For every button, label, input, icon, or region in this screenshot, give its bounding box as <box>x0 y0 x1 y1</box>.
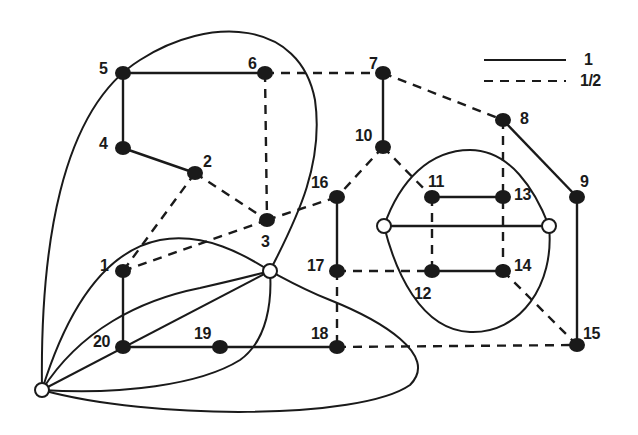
node-18 <box>329 340 345 354</box>
legend <box>484 60 566 81</box>
node-label-3: 3 <box>261 234 269 250</box>
hub-curves <box>42 32 550 412</box>
node-label-19: 19 <box>194 326 211 342</box>
node-label-20: 20 <box>93 334 110 350</box>
node-16 <box>329 190 345 204</box>
node-14 <box>495 264 511 278</box>
edge-10-11 <box>383 147 432 197</box>
node-label-5: 5 <box>99 61 107 77</box>
hub-node-hubW <box>377 219 391 233</box>
node-8 <box>495 113 511 127</box>
node-4 <box>115 141 131 155</box>
curve-lens-bottom <box>384 226 550 332</box>
curve-hub-straight <box>42 271 270 390</box>
node-label-7: 7 <box>369 56 377 72</box>
node-label-1: 1 <box>100 258 108 274</box>
node-label-4: 4 <box>99 136 107 152</box>
node-20 <box>115 340 131 354</box>
legend-dashed-label: 1/2 <box>580 73 601 89</box>
curve-loop-top <box>42 32 317 390</box>
edge-2-1 <box>123 173 195 271</box>
node-2 <box>187 166 203 180</box>
node-12 <box>424 264 440 278</box>
node-label-10: 10 <box>355 128 372 144</box>
edge-10-16 <box>337 147 383 197</box>
curve-loop-mid <box>42 238 270 390</box>
node-label-16: 16 <box>311 175 328 191</box>
node-label-11: 11 <box>428 174 444 190</box>
node-label-8: 8 <box>520 111 528 127</box>
node-11 <box>424 190 440 204</box>
node-10 <box>375 140 391 154</box>
node-label-6: 6 <box>248 56 256 72</box>
hub-node-hubE <box>542 219 556 233</box>
edge-4-2 <box>123 148 195 173</box>
node-5 <box>115 66 131 80</box>
node-label-2: 2 <box>203 154 211 170</box>
edge-6-3 <box>265 73 267 220</box>
node-label-9: 9 <box>580 174 588 190</box>
hub-node-hubL <box>35 383 49 397</box>
node-label-13: 13 <box>514 187 531 203</box>
node-label-14: 14 <box>514 258 531 274</box>
edges <box>123 73 577 347</box>
node-3 <box>259 213 275 227</box>
node-label-18: 18 <box>311 326 328 342</box>
edge-14-15 <box>503 271 577 345</box>
graph-canvas <box>0 0 638 435</box>
graph-diagram: 1 1/2 1234567891011121314151617181920 <box>0 0 638 435</box>
node-9 <box>569 190 585 204</box>
node-label-17: 17 <box>307 258 324 274</box>
node-6 <box>257 66 273 80</box>
hub-node-hubC <box>263 264 277 278</box>
legend-solid-label: 1 <box>584 52 592 68</box>
node-19 <box>212 340 228 354</box>
edge-2-3 <box>195 173 267 220</box>
edge-18-15 <box>337 345 577 347</box>
node-label-15: 15 <box>583 326 600 342</box>
node-1 <box>115 264 131 278</box>
node-17 <box>329 264 345 278</box>
node-13 <box>495 190 511 204</box>
node-label-12: 12 <box>414 286 431 302</box>
